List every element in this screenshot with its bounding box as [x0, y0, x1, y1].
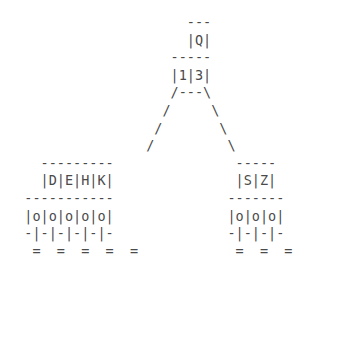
diagram-line-root-pointers: |1|3|	[8, 67, 353, 85]
diagram-line: ---	[8, 14, 353, 32]
diagram-line-record-anchors: = = = = = = = =	[8, 243, 353, 261]
diagram-line-record-stems: -|-|-|-|-|- -|-|-|-	[8, 225, 353, 243]
diagram-line-record-slots: |o|o|o|o|o| |o|o|o|	[8, 208, 353, 226]
diagram-line-connector: / \	[8, 102, 353, 120]
diagram-line-connector: / \	[8, 120, 353, 138]
diagram-line-leaf-keys: |D|E|H|K| |S|Z|	[8, 172, 353, 190]
diagram-line-branch: /---\	[8, 84, 353, 102]
diagram-line: -----	[8, 49, 353, 67]
diagram-line-root-key: |Q|	[8, 32, 353, 50]
diagram-line-connector: / \	[8, 137, 353, 155]
btree-ascii-diagram: --- |Q| ----- |1|3| /---\ / \ / \ / \ --…	[0, 0, 353, 260]
diagram-line-leaf-top-borders: --------- -----	[8, 155, 353, 173]
diagram-line-leaf-bottom-borders: ----------- -------	[8, 190, 353, 208]
